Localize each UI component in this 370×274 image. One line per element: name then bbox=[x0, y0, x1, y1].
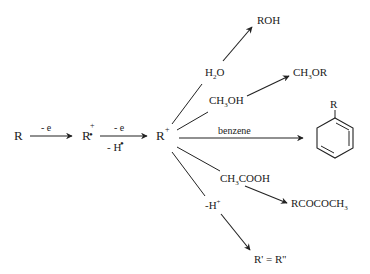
arene-substituent: R bbox=[330, 98, 338, 110]
step2-label-above: - e bbox=[114, 122, 125, 133]
product-ether: CH3OR bbox=[293, 66, 328, 81]
product-alkene: R' = R'' bbox=[254, 253, 286, 265]
arrow-to-alcohol bbox=[223, 27, 252, 61]
reactant-R: R bbox=[14, 128, 23, 143]
reagent-minus-proton: -H+ bbox=[205, 198, 221, 211]
reagent-water: H2O bbox=[205, 66, 224, 81]
arrow-to-ether bbox=[247, 76, 289, 96]
product-ester: RCOCOCH3 bbox=[291, 197, 348, 212]
arrow-to-alkene bbox=[221, 214, 250, 250]
radical-dot: • bbox=[89, 128, 93, 140]
product-rOH: ROH bbox=[257, 14, 280, 26]
step2-h-dot: • bbox=[120, 137, 124, 149]
step1-label: - e bbox=[41, 122, 52, 133]
reaction-scheme: R - e R + • - e - H • R + H2O CH ROH CH3… bbox=[0, 0, 370, 274]
reagent-methanol: CH3OH bbox=[209, 94, 244, 109]
reagent-benzene: benzene bbox=[218, 125, 251, 136]
carbocation: R bbox=[156, 128, 165, 143]
arrow-to-ester bbox=[245, 186, 287, 203]
reagent-acetic-acid: CH3COOH bbox=[220, 172, 270, 187]
carbocation-charge: + bbox=[165, 125, 170, 134]
benzene-ring-icon bbox=[317, 110, 353, 158]
